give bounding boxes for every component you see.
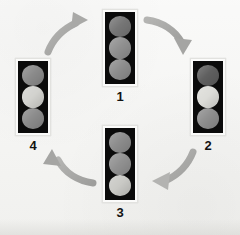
figure-canvas: 1 2 3 bbox=[0, 0, 240, 235]
signal-4-frame bbox=[15, 58, 51, 136]
signal-2-bottom-lamp[interactable] bbox=[197, 108, 219, 129]
signal-1[interactable]: 1 bbox=[102, 9, 138, 87]
signal-4[interactable]: 4 bbox=[15, 58, 51, 136]
signal-1-bottom-lamp[interactable] bbox=[109, 59, 131, 80]
signal-4-bottom-lamp[interactable] bbox=[22, 108, 44, 129]
signal-3-bottom-lamp[interactable] bbox=[109, 175, 131, 196]
arrow-3-to-4-icon bbox=[43, 149, 93, 183]
signal-3-top-lamp[interactable] bbox=[109, 132, 131, 153]
signal-3-housing bbox=[105, 128, 135, 200]
signal-3[interactable]: 3 bbox=[102, 125, 138, 203]
signal-2-frame bbox=[190, 58, 226, 136]
signal-4-label: 4 bbox=[15, 138, 51, 153]
signal-4-housing bbox=[18, 61, 48, 133]
signal-2-top-lamp[interactable] bbox=[197, 65, 219, 86]
signal-4-middle-lamp[interactable] bbox=[22, 86, 44, 107]
signal-1-top-lamp[interactable] bbox=[109, 16, 131, 37]
signal-2[interactable]: 2 bbox=[190, 58, 226, 136]
signal-3-frame bbox=[102, 125, 138, 203]
signal-1-label: 1 bbox=[102, 89, 138, 104]
signal-2-label: 2 bbox=[190, 138, 226, 153]
signal-1-middle-lamp[interactable] bbox=[109, 37, 131, 58]
signal-1-frame bbox=[102, 9, 138, 87]
signal-3-label: 3 bbox=[102, 205, 138, 220]
signal-2-middle-lamp[interactable] bbox=[197, 86, 219, 107]
signal-2-housing bbox=[193, 61, 223, 133]
signal-3-middle-lamp[interactable] bbox=[109, 153, 131, 174]
signal-1-housing bbox=[105, 12, 135, 84]
arrow-4-to-1-icon bbox=[48, 12, 88, 52]
arrow-2-to-3-icon bbox=[152, 152, 193, 190]
signal-4-top-lamp[interactable] bbox=[22, 65, 44, 86]
arrow-1-to-2-icon bbox=[147, 20, 192, 55]
